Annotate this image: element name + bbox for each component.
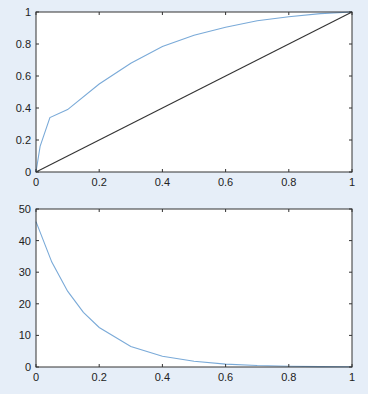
x-tick-label: 0.4 <box>155 371 170 383</box>
plot-area <box>36 209 352 367</box>
plot-1: 00.20.40.60.8100.20.40.60.81 <box>16 6 355 188</box>
x-tick-label: 1 <box>349 371 355 383</box>
x-tick-label: 0.2 <box>92 371 107 383</box>
y-tick-label: 10 <box>19 329 31 341</box>
x-tick-label: 1 <box>349 176 355 188</box>
y-tick-label: 20 <box>19 298 31 310</box>
x-tick-label: 0 <box>33 176 39 188</box>
x-tick-label: 0.6 <box>218 176 233 188</box>
y-tick-label: 50 <box>19 203 31 215</box>
y-tick-label: 0.2 <box>16 134 31 146</box>
x-tick-label: 0.4 <box>155 176 170 188</box>
x-tick-label: 0.8 <box>281 176 296 188</box>
plot-2: 00.20.40.60.8101020304050 <box>19 203 355 383</box>
figure: 00.20.40.60.8100.20.40.60.8100.20.40.60.… <box>0 0 368 394</box>
x-tick-label: 0.8 <box>281 371 296 383</box>
y-tick-label: 40 <box>19 235 31 247</box>
y-tick-label: 0 <box>25 361 31 373</box>
y-tick-label: 0 <box>25 166 31 178</box>
y-tick-label: 0.4 <box>16 102 31 114</box>
x-tick-label: 0 <box>33 371 39 383</box>
y-tick-label: 30 <box>19 266 31 278</box>
x-tick-label: 0.6 <box>218 371 233 383</box>
y-tick-label: 0.8 <box>16 38 31 50</box>
y-tick-label: 0.6 <box>16 70 31 82</box>
x-tick-label: 0.2 <box>92 176 107 188</box>
y-tick-label: 1 <box>25 6 31 18</box>
